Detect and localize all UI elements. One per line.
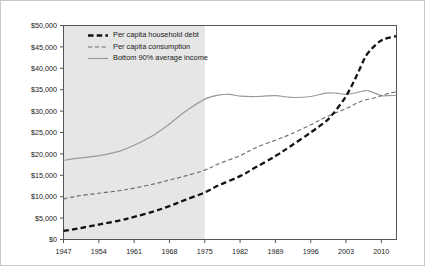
x-tick-label: 1989: [267, 247, 283, 256]
y-tick-label: $40,000: [31, 64, 57, 73]
x-tick-label: 1954: [91, 247, 107, 256]
line-chart: $0$5,000$10,000$15,000$20,000$25,000$30,…: [1, 1, 425, 266]
x-tick-label: 1982: [232, 247, 248, 256]
legend-label: Bottom 90% average income: [113, 53, 208, 62]
y-tick-label: $35,000: [31, 85, 57, 94]
x-tick-label: 1961: [126, 247, 142, 256]
x-tick-label: 1975: [197, 247, 213, 256]
chart-figure: $0$5,000$10,000$15,000$20,000$25,000$30,…: [0, 0, 425, 266]
y-tick-label: $10,000: [31, 192, 57, 201]
x-tick-label: 1968: [161, 247, 177, 256]
y-tick-label: $25,000: [31, 128, 57, 137]
x-tick-label: 2010: [373, 247, 389, 256]
y-tick-label: $5,000: [35, 214, 57, 223]
legend-label: Per capita household debt: [113, 30, 199, 39]
y-tick-label: $45,000: [31, 43, 57, 52]
y-tick-label: $0: [49, 235, 57, 244]
y-tick-label: $30,000: [31, 107, 57, 116]
x-tick-label: 1996: [303, 247, 319, 256]
x-tick-label: 2003: [338, 247, 354, 256]
y-tick-label: $15,000: [31, 171, 57, 180]
legend-label: Per capita consumption: [113, 42, 190, 51]
y-tick-label: $50,000: [31, 21, 57, 30]
y-tick-label: $20,000: [31, 150, 57, 159]
x-tick-label: 1947: [56, 247, 72, 256]
